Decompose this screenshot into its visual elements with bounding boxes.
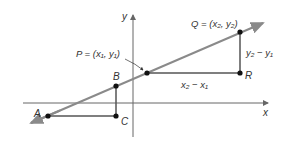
point-a xyxy=(45,113,50,118)
label-rise: y₂ − y₁ xyxy=(245,47,273,58)
p-pointer-arrow xyxy=(125,59,143,70)
label-c: C xyxy=(121,116,129,127)
label-q: Q = (x₂, y₂) xyxy=(191,18,238,29)
label-r: R xyxy=(245,70,252,81)
point-b xyxy=(113,83,118,88)
label-run: x₂ − x₁ xyxy=(180,79,208,90)
label-a: A xyxy=(33,108,41,119)
point-p xyxy=(144,70,149,75)
point-r xyxy=(237,70,242,75)
label-p: P = (x₁, y₁) xyxy=(76,48,120,59)
x-axis-label: x xyxy=(262,107,269,118)
slope-diagram: x y A B C R P = (x₁, y₁) Q = (x₂, y₂) y₂… xyxy=(0,0,283,146)
point-c xyxy=(113,113,118,118)
point-q xyxy=(237,29,242,34)
label-b: B xyxy=(113,71,120,82)
y-axis-label: y xyxy=(121,11,128,22)
